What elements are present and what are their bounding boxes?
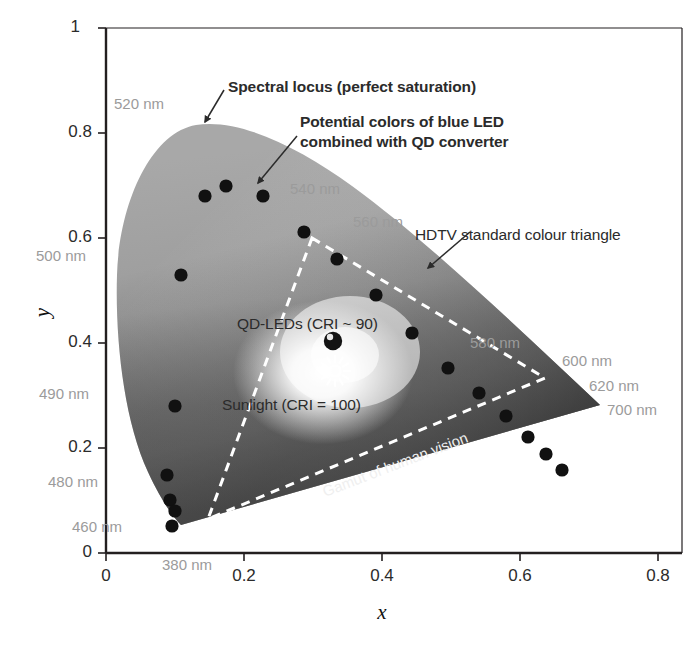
wavelength-label-480: 480 nm <box>48 473 98 490</box>
x-tick-0-2: 0.2 <box>232 566 256 586</box>
y-tick-0-8: 0.8 <box>68 122 92 142</box>
spectral-locus-annotation: Spectral locus (perfect saturation) <box>228 78 476 96</box>
wavelength-label-460: 460 nm <box>72 518 122 535</box>
x-tick-0-8: 0.8 <box>646 566 670 586</box>
wavelength-label-380: 380 nm <box>162 556 212 573</box>
y-axis-label: y <box>30 308 55 317</box>
x-tick-0-4: 0.4 <box>370 566 394 586</box>
cie-chromaticity-figure: 1 0.8 0.6 0.4 0.2 0 0 0.2 0.4 0.6 0.8 x … <box>0 0 700 645</box>
x-tick-0: 0 <box>101 566 110 586</box>
y-tick-1: 1 <box>71 17 80 37</box>
wavelength-label-500: 500 nm <box>36 247 86 264</box>
potential-colors-annotation-line1: Potential colors of blue LED <box>300 113 504 131</box>
x-tick-0-6: 0.6 <box>508 566 532 586</box>
wavelength-label-580: 580 nm <box>470 334 520 351</box>
x-axis-label: x <box>377 600 386 625</box>
qd-leds-annotation: QD-LEDs (CRI ~ 90) <box>237 315 378 333</box>
hdtv-triangle-annotation: HDTV standard colour triangle <box>415 226 621 244</box>
wavelength-label-560: 560 nm <box>353 213 403 230</box>
sunlight-annotation: Sunlight (CRI = 100) <box>222 396 361 414</box>
qd-led-marker <box>324 332 342 350</box>
potential-colors-annotation-line2: combined with QD converter <box>300 133 508 151</box>
wavelength-label-520: 520 nm <box>114 95 164 112</box>
wavelength-label-700: 700 nm <box>607 401 657 418</box>
y-tick-0-2: 0.2 <box>68 437 92 457</box>
y-tick-0-6: 0.6 <box>68 227 92 247</box>
wavelength-label-600: 600 nm <box>562 352 612 369</box>
wavelength-label-620: 620 nm <box>589 377 639 394</box>
y-tick-0: 0 <box>83 542 92 562</box>
wavelength-label-490: 490 nm <box>39 385 89 402</box>
wavelength-label-540: 540 nm <box>290 180 340 197</box>
y-tick-0-4: 0.4 <box>68 332 92 352</box>
